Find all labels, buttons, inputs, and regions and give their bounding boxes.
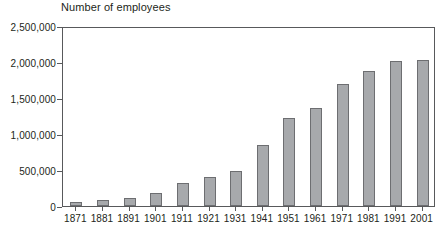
x-axis-tick-label: 1921 [197, 213, 220, 224]
y-axis-tick-label: 2,500,000 [11, 22, 56, 33]
bar [363, 71, 375, 206]
x-axis-tick-mark [102, 207, 103, 211]
x-axis-tick-label: 1901 [144, 213, 167, 224]
x-axis-tick-mark [342, 207, 343, 211]
y-axis-label-group: 2,500,0002,000,0001,500,0001,000,000500,… [0, 27, 56, 207]
bar [310, 108, 322, 206]
x-axis-tick-label: 1941 [250, 213, 273, 224]
bar [283, 118, 295, 206]
x-axis-tick-label: 1991 [384, 213, 407, 224]
bar [204, 177, 216, 206]
x-axis-tick-mark [422, 207, 423, 211]
x-axis-tick-mark [395, 207, 396, 211]
bar [417, 60, 429, 206]
bar [230, 171, 242, 206]
x-axis-tick-mark [75, 207, 76, 211]
x-axis-tick-label: 1871 [64, 213, 87, 224]
x-axis-tick-mark [315, 207, 316, 211]
chart-title: Number of employees [61, 1, 171, 13]
x-axis-tick-mark [155, 207, 156, 211]
bar [97, 200, 109, 206]
x-axis-tick-label: 1911 [171, 213, 193, 224]
x-axis-tick-label: 1971 [330, 213, 353, 224]
x-axis-label-group: 1871188118911901191119211931194119511961… [62, 213, 435, 231]
x-axis-tick-group [62, 207, 435, 212]
x-axis-tick-label: 1931 [224, 213, 247, 224]
x-axis-tick-mark [182, 207, 183, 211]
bar [150, 193, 162, 206]
x-axis-tick-mark [368, 207, 369, 211]
bar-series [63, 28, 434, 206]
plot-area [62, 27, 435, 207]
y-axis-tick-label: 2,000,000 [11, 58, 56, 69]
x-axis-tick-label: 1881 [91, 213, 114, 224]
x-axis-tick-mark [209, 207, 210, 211]
x-axis-tick-label: 2001 [410, 213, 433, 224]
x-axis-tick-label: 1981 [357, 213, 380, 224]
bar [390, 61, 402, 206]
y-axis-tick-label: 500,000 [19, 166, 56, 177]
y-axis-tick-label: 1,500,000 [11, 94, 56, 105]
y-axis-tick-label: 1,000,000 [11, 130, 56, 141]
bar [257, 145, 269, 206]
bar [70, 202, 82, 206]
x-axis-tick-mark [262, 207, 263, 211]
bar [124, 198, 136, 206]
x-axis-tick-mark [129, 207, 130, 211]
x-axis-tick-mark [288, 207, 289, 211]
x-axis-tick-label: 1951 [277, 213, 300, 224]
x-axis-tick-label: 1961 [304, 213, 327, 224]
bar [337, 84, 349, 206]
x-axis-tick-mark [235, 207, 236, 211]
chart-screenshot: Number of employees 2,500,0002,000,0001,… [0, 0, 442, 243]
x-axis-tick-label: 1891 [117, 213, 140, 224]
bar [177, 183, 189, 206]
